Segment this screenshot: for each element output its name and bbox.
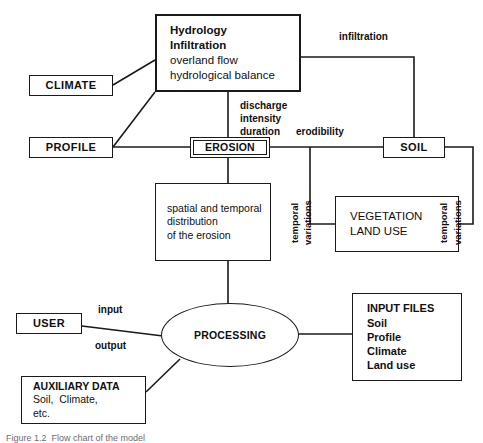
node-auxiliary-line-2: Soil, Climate, [22,393,145,407]
node-hydrology-line-1: Hydrology [157,23,299,38]
node-soil-label: SOIL [400,140,427,154]
node-input-files-line-2: Soil [353,316,461,330]
node-erosion-label: EROSION [205,141,255,155]
node-hydrology: Hydrology Infiltration overland flow hyd… [155,14,301,92]
node-processing: PROCESSING [161,303,299,367]
node-hydrology-line-4: hydrological balance [157,68,299,83]
node-input-files-line-3: Profile [353,330,461,344]
node-climate: CLIMATE [29,75,113,96]
edge-hydrology-to-profile [113,92,155,147]
node-climate-label: CLIMATE [46,78,97,92]
edge-label-input: input [98,303,122,316]
edge-user-to-processing [82,326,163,336]
node-hydrology-line-2: Infiltration [157,38,299,53]
node-processing-label: PROCESSING [194,329,266,341]
edge-auxiliary-to-processing [146,359,180,392]
node-spatial-line-1: spatial and temporal [156,202,270,216]
edge-label-temporal-left: temporal [289,203,300,243]
node-user: USER [16,313,82,334]
node-input-files-line-1: INPUT FILES [353,301,461,315]
edge-climate-to-hydrology [113,60,155,85]
node-auxiliary-line-1: AUXILIARY DATA [22,380,145,394]
node-soil: SOIL [383,137,445,158]
edge-label-erodibility: erodibility [296,125,344,138]
node-profile-label: PROFILE [46,140,96,154]
edge-label-output: output [95,339,126,352]
edge-soil-line-to-vegetation-left [310,147,335,224]
node-input-files: INPUT FILES Soil Profile Climate Land us… [352,293,462,381]
node-auxiliary-data: AUXILIARY DATA Soil, Climate, etc. [21,376,146,424]
edge-label-variations-left: variations [302,200,313,245]
edge-label-infiltration: infiltration [339,30,388,43]
node-spatial-temporal-distribution: spatial and temporal distribution of the… [155,183,271,261]
node-spatial-line-3: of the erosion [156,229,270,243]
node-input-files-line-4: Climate [353,344,461,358]
node-erosion-inner-border: EROSION [193,140,267,156]
node-input-files-line-5: Land use [353,358,461,372]
node-erosion: EROSION [190,137,270,158]
node-spatial-line-2: distribution [156,215,270,229]
edge-label-temporal-right: temporal [438,203,449,243]
node-user-label: USER [33,316,65,330]
node-hydrology-line-3: overland flow [157,53,299,68]
node-profile: PROFILE [29,137,113,158]
edge-label-variations-right: variations [452,200,463,245]
edge-label-discharge-intensity-duration: discharge intensity duration [240,99,287,138]
node-auxiliary-line-3: etc. [22,407,145,421]
figure-caption: Figure 1.2 Flow chart of the model [6,433,145,443]
